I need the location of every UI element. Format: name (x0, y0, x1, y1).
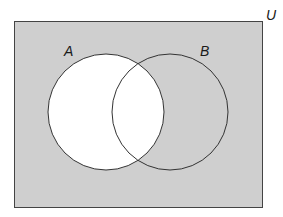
universe-label: U (266, 7, 277, 23)
venn-diagram: A B U (0, 0, 283, 217)
set-b-label: B (200, 43, 209, 59)
set-a-fill (48, 54, 164, 170)
set-a-label: A (63, 43, 73, 59)
